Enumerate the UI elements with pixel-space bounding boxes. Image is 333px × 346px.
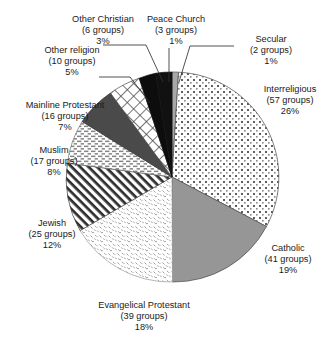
pie-label-secular-groups: (2 groups) (228, 45, 314, 56)
pie-label-secular: Secular (2 groups) 1% (228, 34, 314, 68)
pie-label-peace-church: Peace Church (3 groups) 1% (124, 14, 228, 48)
pie-label-muslim: Muslim (17 groups) 8% (14, 145, 94, 179)
pie-label-mainline-protestant-groups: (16 groups) (4, 111, 126, 122)
pie-label-mainline-protestant-percent: 7% (4, 122, 126, 133)
pie-label-interreligious-name: Interreligious (246, 84, 333, 95)
pie-label-secular-name: Secular (228, 34, 314, 45)
pie-label-evangelical-protestant: Evangelical Protestant (39 groups) 18% (66, 300, 222, 334)
pie-label-evangelical-protestant-groups: (39 groups) (66, 311, 222, 322)
pie-label-evangelical-protestant-name: Evangelical Protestant (66, 300, 222, 311)
pie-label-peace-church-name: Peace Church (124, 14, 228, 25)
pie-label-other-religion: Other religion (10 groups) 5% (22, 45, 122, 79)
pie-label-catholic-groups: (41 groups) (244, 254, 332, 265)
pie-label-catholic-name: Catholic (244, 243, 332, 254)
pie-label-other-religion-name: Other religion (22, 45, 122, 56)
pie-label-other-religion-groups: (10 groups) (22, 56, 122, 67)
pie-label-secular-percent: 1% (228, 56, 314, 67)
pie-label-evangelical-protestant-percent: 18% (66, 322, 222, 333)
pie-label-catholic: Catholic (41 groups) 19% (244, 243, 332, 277)
pie-label-muslim-percent: 8% (14, 167, 94, 178)
pie-label-muslim-name: Muslim (14, 145, 94, 156)
pie-label-peace-church-percent: 1% (124, 36, 228, 47)
pie-label-jewish-percent: 12% (12, 240, 92, 251)
pie-label-mainline-protestant: Mainline Protestant (16 groups) 7% (4, 100, 126, 134)
pie-label-other-religion-percent: 5% (22, 67, 122, 78)
pie-label-catholic-percent: 19% (244, 265, 332, 276)
pie-label-interreligious-percent: 26% (246, 106, 333, 117)
pie-label-peace-church-groups: (3 groups) (124, 25, 228, 36)
pie-label-jewish-name: Jewish (12, 218, 92, 229)
pie-label-interreligious: Interreligious (57 groups) 26% (246, 84, 333, 118)
pie-label-jewish-groups: (25 groups) (12, 229, 92, 240)
pie-label-mainline-protestant-name: Mainline Protestant (4, 100, 126, 111)
pie-label-jewish: Jewish (25 groups) 12% (12, 218, 92, 252)
pie-chart-figure: Other Christian (6 groups) 3% Peace Chur… (0, 0, 333, 346)
pie-label-interreligious-groups: (57 groups) (246, 95, 333, 106)
pie-label-muslim-groups: (17 groups) (14, 156, 94, 167)
